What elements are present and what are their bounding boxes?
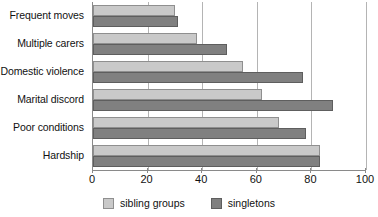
x-axis: 020406080100 [92,173,365,189]
bar-singletons-marital-discord [93,100,333,111]
bar-sibling-groups-multiple-carers [93,33,197,44]
category-label: Multiple carers [0,38,84,49]
bar-singletons-domestic-violence [93,72,303,83]
bar-singletons-frequent-moves [93,16,178,27]
legend-swatch-icon [211,198,222,209]
legend-label: singletons [228,197,275,209]
category-axis: Frequent movesMultiple carersDomestic vi… [0,2,88,170]
x-tick-label-40: 40 [195,173,207,186]
bar-sibling-groups-poor-conditions [93,117,279,128]
bar-sibling-groups-marital-discord [93,89,262,100]
x-tick-label-100: 100 [356,173,374,186]
x-tick-label-60: 60 [250,173,262,186]
category-label: Poor conditions [0,122,84,133]
category-label: Domestic violence [0,66,84,77]
bar-singletons-poor-conditions [93,128,306,139]
gridline-100 [366,2,367,170]
x-tick-label-80: 80 [304,173,316,186]
x-tick-label-20: 20 [140,173,152,186]
category-label: Marital discord [0,94,84,105]
category-label: Hardship [0,150,84,161]
bar-chart: Frequent movesMultiple carersDomestic vi… [0,0,378,217]
bar-sibling-groups-domestic-violence [93,61,243,72]
bar-singletons-hardship [93,156,320,167]
legend-item-singletons[interactable]: singletons [211,197,275,209]
x-tick-label-0: 0 [89,173,95,186]
plot-area [92,2,366,171]
bar-sibling-groups-hardship [93,145,320,156]
bar-singletons-multiple-carers [93,44,227,55]
chart-legend: sibling groupssingletons [0,193,378,213]
category-label: Frequent moves [0,10,84,21]
bar-sibling-groups-frequent-moves [93,5,175,16]
legend-swatch-icon [103,198,114,209]
legend-item-sibling-groups[interactable]: sibling groups [103,197,185,209]
legend-label: sibling groups [120,197,185,209]
